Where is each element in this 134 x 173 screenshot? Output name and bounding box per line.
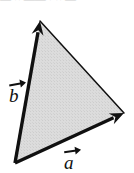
vector-b-label: b: [9, 79, 26, 105]
triangle-fill: [15, 21, 124, 163]
vector-b-letter: b: [9, 86, 26, 105]
vector-a-label: a: [64, 146, 81, 172]
vector-triangle-figure: b a — ·· —— · ·· —: [0, 0, 134, 173]
vector-arrow-icon: [64, 145, 82, 155]
vector-a-letter: a: [64, 153, 81, 172]
